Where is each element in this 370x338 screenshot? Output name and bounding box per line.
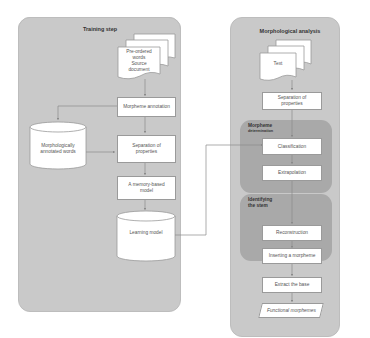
learning-model-database-icon (117, 211, 175, 261)
learning-model-label: Learning model (118, 230, 174, 236)
classification-box[interactable]: Classification (262, 138, 322, 155)
inserting-morpheme-box[interactable]: Inserting a morpheme (262, 248, 322, 264)
extract-base-box[interactable]: Extract the base (262, 277, 322, 293)
functional-morphemes-output[interactable]: Functional morphemes (258, 303, 324, 318)
analysis-separation-box[interactable]: Separation of properties (262, 92, 322, 110)
morpheme-annotation-box[interactable]: Morpheme annotation (117, 97, 176, 117)
annotated-words-label: Morphologically annotated words (32, 143, 84, 155)
separation-of-properties-box[interactable]: Separation of properties (117, 135, 176, 163)
text-document-label: Text (262, 61, 294, 67)
memory-based-model-box[interactable]: A memory-based model (117, 176, 176, 200)
reconstruction-box[interactable]: Reconstruction (262, 225, 322, 241)
extrapolation-box[interactable]: Extrapolation (262, 165, 322, 181)
source-document-label: Pre-ordered words Source document (118, 49, 160, 73)
